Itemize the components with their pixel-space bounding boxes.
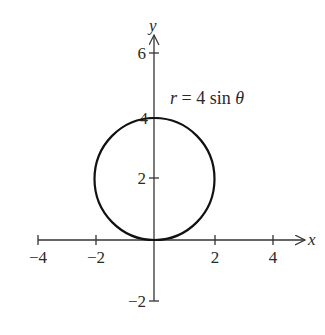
y-tick-label: 6 [138, 44, 147, 63]
y-tick-label: −2 [128, 292, 146, 311]
x-tick-label: 4 [269, 248, 278, 267]
curve-label-eq: = 4 sin [177, 88, 235, 108]
x-tick-label: −4 [29, 248, 48, 267]
x-tick-label: −2 [87, 248, 105, 267]
y-axis-label: y [147, 16, 157, 35]
y-tick-label: 2 [138, 169, 147, 188]
curve-label: r = 4 sin θ [170, 88, 244, 108]
x-axis-label: x [307, 230, 316, 249]
polar-plot: −4 −2 2 4 6 4 2 −2 x y r = 4 sin θ [0, 0, 325, 335]
x-tick-label: 2 [211, 248, 220, 267]
curve-label-theta: θ [235, 88, 244, 108]
